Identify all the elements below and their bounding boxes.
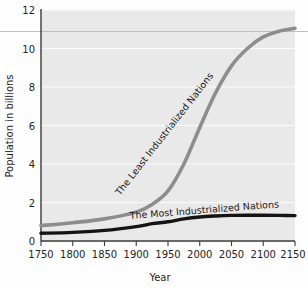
population-growth-chart: 12 10 8 6 4 2 0 1750 1800 1850 1900 1950… [0, 0, 308, 288]
x-tick-label-1900: 1900 [124, 249, 149, 260]
y-tick-label-12: 12 [22, 5, 35, 16]
x-tick-label-2150: 2150 [280, 249, 305, 260]
y-tick-label-8: 8 [29, 82, 35, 93]
x-tick-label-2100: 2100 [251, 249, 276, 260]
x-tick-label-1750: 1750 [28, 249, 53, 260]
y-tick-label-0: 0 [29, 236, 35, 247]
chart-svg: 12 10 8 6 4 2 0 1750 1800 1850 1900 1950… [0, 0, 308, 288]
y-tick-label-10: 10 [22, 44, 35, 55]
x-tick-label-1800: 1800 [60, 249, 85, 260]
y-tick-label-2: 2 [29, 198, 35, 209]
x-tick-label-2050: 2050 [219, 249, 244, 260]
x-tick-label-1950: 1950 [155, 249, 180, 260]
y-tick-labels: 12 10 8 6 4 2 0 [22, 5, 35, 247]
y-axis-title: Population in billions [4, 74, 15, 177]
y-tick-label-6: 6 [29, 121, 35, 132]
x-tick-label-1850: 1850 [92, 249, 117, 260]
y-tick-label-4: 4 [29, 159, 35, 170]
x-tick-labels: 1750 1800 1850 1900 1950 2000 2050 2100 … [28, 249, 305, 260]
x-tick-marks [41, 241, 295, 246]
x-tick-label-2000: 2000 [187, 249, 212, 260]
x-axis-title: Year [148, 272, 171, 283]
